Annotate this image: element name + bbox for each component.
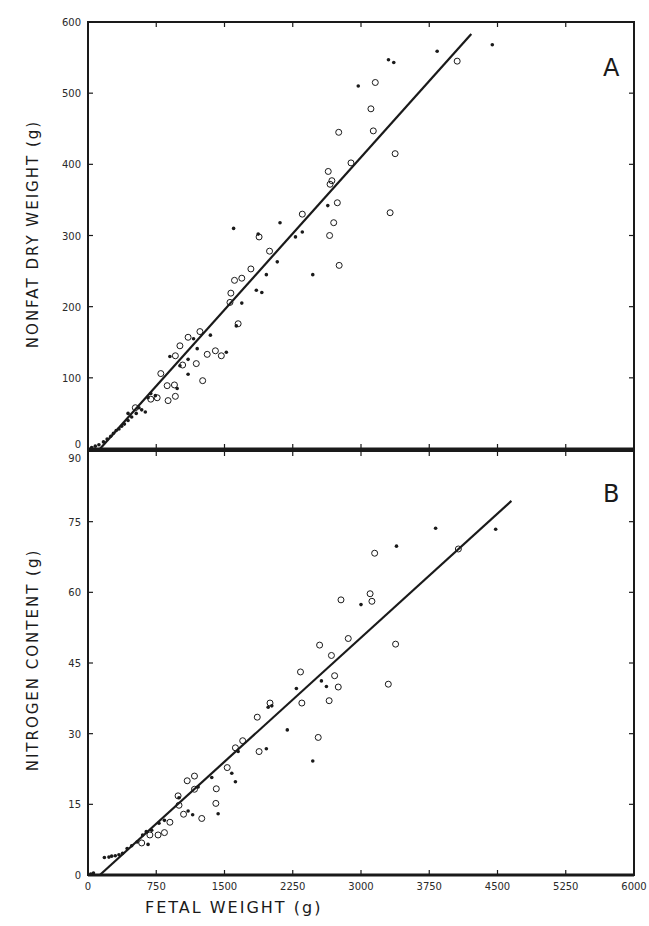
data-point-filled [256,232,260,236]
data-point-open [327,233,333,239]
data-point-filled [117,853,121,857]
data-point-filled [320,679,324,683]
data-point-open [239,275,245,281]
data-point-filled [311,759,315,763]
data-point-filled [168,355,172,359]
data-point-filled [97,443,101,447]
data-point-filled [121,852,125,856]
data-point-open [332,673,338,679]
data-point-open [181,811,187,817]
series-dot [144,526,497,846]
data-point-filled [232,227,236,231]
data-point-open [267,248,273,254]
data-point-open [299,211,305,217]
y-tick-label: 15 [68,799,81,810]
data-point-open [167,819,173,825]
data-point-open [367,591,373,597]
data-point-filled [144,410,148,414]
data-point-open [297,669,303,675]
data-point-filled [92,871,96,875]
data-point-filled [225,350,229,354]
data-point-open [336,262,342,268]
data-point-filled [178,364,182,368]
data-point-open [158,371,164,377]
data-point-open [336,129,342,135]
y-tick-label: 100 [62,373,81,384]
y-tick-label: 600 [62,17,81,28]
data-point-filled [114,854,118,858]
data-point-open [185,334,191,340]
x-tick-label: 3750 [417,881,442,892]
data-point-open [213,786,219,792]
panel-b-plot: 0750150022503000375045005250600001530456… [68,451,646,892]
data-point-open [317,642,323,648]
data-point-open [338,597,344,603]
data-point-open [248,266,254,272]
data-point-open [155,832,161,838]
data-point-open [172,353,178,359]
data-point-filled [175,387,179,391]
data-point-filled [144,830,148,834]
data-point-filled [265,747,269,751]
data-point-filled [149,392,153,396]
x-tick-label: 750 [147,881,166,892]
data-point-filled [395,544,399,548]
data-point-filled [135,840,139,844]
data-point-filled [356,84,360,88]
data-point-open [331,220,337,226]
data-point-filled [295,687,299,691]
data-point-filled [494,527,498,531]
data-point-open [368,106,374,112]
data-point-filled [491,43,495,47]
data-point-filled [186,372,190,376]
data-point-open [165,398,171,404]
y-tick-label: 30 [68,729,81,740]
data-point-open [161,830,167,836]
data-point-filled [134,412,138,416]
panel-a-letter: A [603,54,620,82]
data-point-filled [195,347,199,351]
data-point-open [177,343,183,349]
data-point-filled [154,394,158,398]
data-point-filled [157,821,161,825]
regression-line [100,34,471,449]
data-point-open [197,329,203,335]
data-point-open [199,815,205,821]
x-tick-label: 0 [85,881,91,892]
data-point-filled [230,771,234,775]
data-point-open [228,290,234,296]
data-point-open [184,778,190,784]
data-point-filled [146,843,150,847]
x-tick-label: 5250 [553,881,578,892]
data-point-filled [311,273,315,277]
data-point-filled [240,301,244,305]
data-point-filled [216,812,220,816]
data-point-open [385,681,391,687]
panel-b-y-axis-title: NITROGEN CONTENT (g) [24,549,42,772]
y-tick-label: 500 [62,88,81,99]
data-point-filled [209,333,213,337]
data-point-filled [109,434,113,438]
data-point-filled [325,685,329,689]
data-point-open [328,652,334,658]
data-point-filled [130,415,134,419]
data-point-filled [126,419,130,423]
data-point-filled [141,833,145,837]
data-point-filled [105,437,109,441]
y-tick-label: 0 [75,870,81,881]
data-point-open [372,550,378,556]
data-point-filled [294,235,298,239]
data-point-open [348,160,354,166]
data-point-filled [326,204,330,208]
data-point-filled [150,828,154,832]
y-tick-label: 400 [62,159,81,170]
data-point-open [454,58,460,64]
data-point-filled [434,526,438,530]
x-tick-label: 4500 [485,881,510,892]
x-tick-label: 1500 [212,881,237,892]
y-tick-label: 0 [75,439,81,450]
y-tick-label: 75 [68,517,81,528]
data-point-open [232,277,238,283]
data-point-filled [266,705,270,709]
data-point-filled [191,813,195,817]
